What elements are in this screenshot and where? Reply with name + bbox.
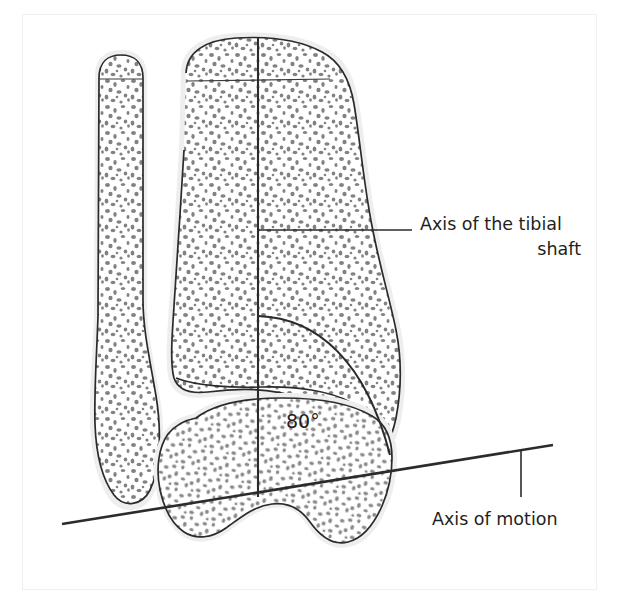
tibial-axis-label-line1: Axis of the tibial [420,214,562,234]
motion-axis-label: Axis of motion [432,509,558,529]
tibial-axis-label-line2: shaft [537,239,581,259]
angle-label: 80° [286,410,320,432]
diagram-page: Axis of the tibial shaft Axis of motion … [0,0,619,604]
anatomy-figure: Axis of the tibial shaft Axis of motion … [0,0,619,604]
